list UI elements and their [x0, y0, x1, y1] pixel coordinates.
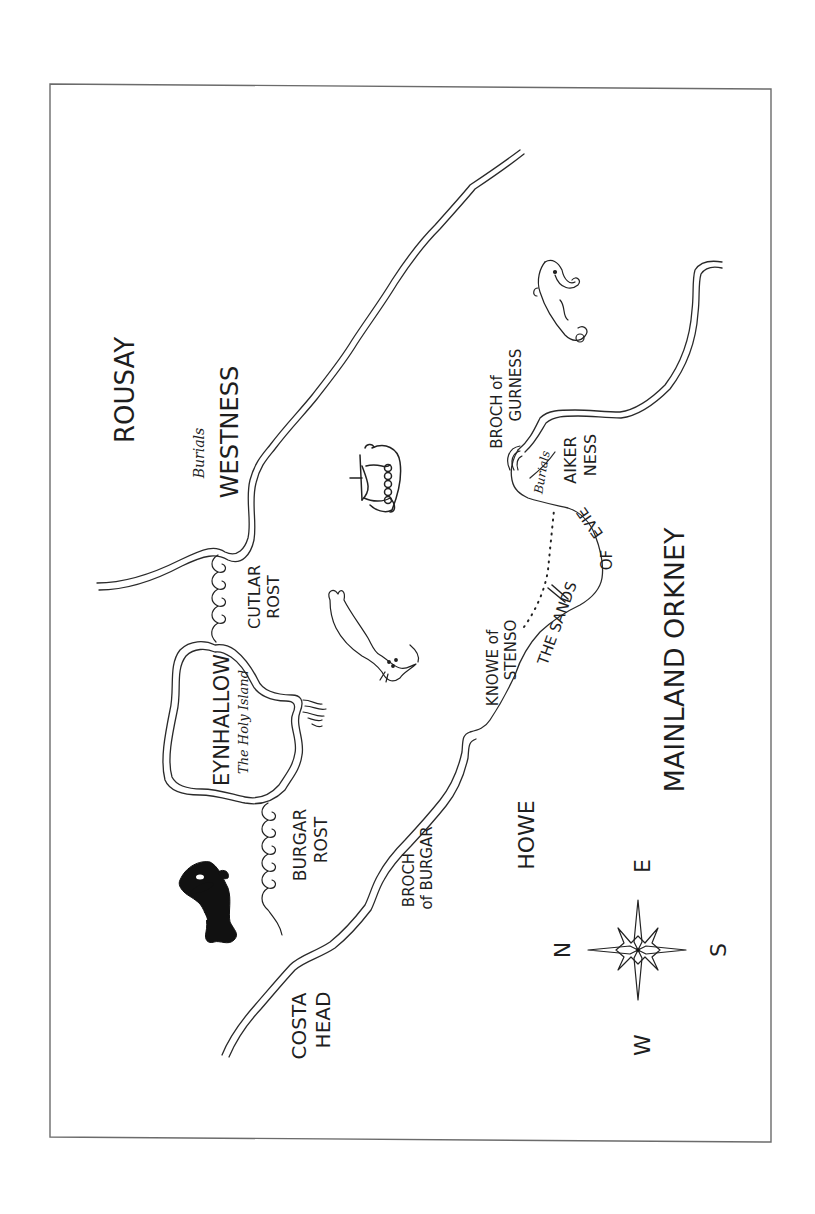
- label-cutlar-rost-line2: ROST: [264, 575, 283, 619]
- compass-south: S: [706, 943, 731, 957]
- wave-swirls-cutlar-rost: [212, 555, 226, 642]
- seal-icon: [329, 591, 419, 682]
- evie-dotted-path: [524, 510, 554, 627]
- sea-serpent-icon: [534, 260, 587, 342]
- label-eynhallow: EYNHALLOW: [210, 654, 234, 786]
- broch-of-gurness-icon: [508, 446, 522, 470]
- orkney-map: N E S W ROUSAY Burials WESTNESS CUTLAR R…: [0, 0, 815, 1214]
- label-westness-burials: Burials: [191, 428, 207, 479]
- compass-rose-icon: [588, 900, 686, 1000]
- label-aikerness-line2: NESS: [581, 434, 600, 476]
- label-knowe-of-stenso-line1: KNOWE of: [484, 629, 502, 706]
- mainland-coastline-east: [518, 261, 722, 478]
- viking-longship-icon: [350, 444, 401, 512]
- label-burgar-rost-line1: BURGAR: [290, 809, 310, 882]
- compass-labels: N E S W: [550, 859, 731, 1056]
- label-westness: WESTNESS: [216, 366, 244, 498]
- compass-north: N: [550, 942, 575, 958]
- label-sands-of-evie-line1: THE SANDS: [534, 579, 581, 668]
- label-mainland-orkney: MAINLAND ORKNEY: [659, 527, 690, 793]
- seaweed-icon: [303, 700, 326, 727]
- label-broch-of-gurness-line1: BROCH of: [488, 375, 506, 449]
- label-rousay: ROUSAY: [110, 337, 140, 443]
- compass-west: W: [630, 1034, 655, 1056]
- compass-east: E: [630, 859, 655, 873]
- orca-icon: [179, 862, 236, 943]
- rousay-coastline: [97, 150, 524, 590]
- label-costa-head-line2: HEAD: [311, 992, 335, 1049]
- wave-swirls-burgar-rost: [262, 803, 282, 935]
- label-knowe-of-stenso-line2: STENSO: [502, 620, 520, 681]
- label-cutlar-rost-line1: CUTLAR: [245, 565, 264, 629]
- label-broch-of-burgar-line2: of BURGAR: [418, 826, 436, 909]
- label-costa-head-line1: COSTA: [287, 992, 311, 1059]
- label-burgar-rost-line2: ROST: [311, 816, 331, 863]
- label-howe: HOWE: [514, 800, 539, 870]
- label-broch-of-gurness-line2: GURNESS: [507, 349, 525, 422]
- mainland-coastline-west: [222, 450, 603, 1057]
- label-broch-of-burgar-line1: BROCH: [400, 853, 418, 907]
- label-aikerness-burials: Burials: [531, 450, 552, 496]
- label-sands-of-evie-line2: OF: [598, 550, 616, 570]
- label-eynhallow-subtitle: The Holy Island: [236, 670, 251, 774]
- label-aikerness-line1: AIKER: [561, 436, 580, 483]
- label-sands-of-evie-line3: EVIE: [573, 504, 607, 542]
